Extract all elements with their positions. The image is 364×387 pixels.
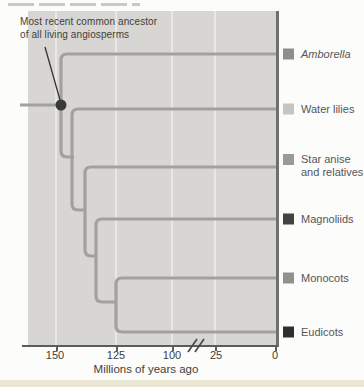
taxon-row-amborella: Amborella — [283, 48, 351, 61]
amborella-label: Amborella — [301, 48, 351, 61]
magnoliids-label: Magnoliids — [301, 213, 354, 226]
tick-label-25: 25 — [210, 349, 222, 361]
mrca-callout-line1: Most recent common ancestor — [20, 15, 157, 28]
eudicots-label: Eudicots — [301, 326, 343, 339]
axis-title: Millions of years ago — [94, 363, 199, 375]
gridline-150 — [55, 11, 57, 345]
page-edge-strip — [0, 380, 364, 387]
taxon-row-star-anise: Star anise and relatives — [283, 153, 364, 179]
monocots-color-swatch — [283, 273, 294, 284]
mrca-callout: Most recent common ancestor of all livin… — [20, 15, 157, 41]
tree-plot-panel — [28, 11, 278, 346]
tick-label-150: 150 — [46, 349, 64, 361]
cropped-text-remnant — [8, 3, 140, 6]
magnoliids-color-swatch — [283, 214, 294, 225]
water-lilies-color-swatch — [283, 104, 294, 115]
tick-label-125: 125 — [107, 349, 125, 361]
tick-label-0: 0 — [272, 349, 278, 361]
taxon-row-magnoliids: Magnoliids — [283, 213, 354, 226]
monocots-label: Monocots — [301, 272, 349, 285]
gridline-100 — [171, 11, 173, 345]
amborella-color-swatch — [283, 49, 294, 60]
tick-label-100: 100 — [163, 349, 181, 361]
taxon-row-eudicots: Eudicots — [283, 326, 343, 339]
gridline-25 — [214, 11, 216, 345]
eudicots-color-swatch — [283, 327, 294, 338]
water-lilies-label: Water lilies — [301, 103, 354, 116]
panel-right-edge-line — [276, 11, 279, 347]
time-axis-line — [22, 345, 278, 347]
angiosperm-phylogeny-figure: Most recent common ancestor of all livin… — [0, 0, 364, 387]
star-anise-color-swatch — [283, 154, 294, 165]
taxon-row-monocots: Monocots — [283, 272, 349, 285]
taxon-row-water-lilies: Water lilies — [283, 103, 354, 116]
mrca-callout-line2: of all living angiosperms — [20, 28, 157, 41]
star-anise-label: Star anise and relatives — [301, 153, 364, 179]
gridline-125 — [115, 11, 117, 345]
